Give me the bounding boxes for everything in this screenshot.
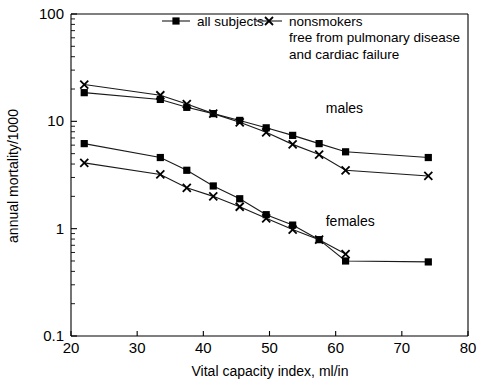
chart-background bbox=[0, 0, 485, 385]
x-tick-label: 60 bbox=[327, 339, 344, 356]
x-axis-title: Vital capacity index, ml/in bbox=[192, 363, 349, 379]
x-tick-label: 30 bbox=[129, 339, 146, 356]
annotation-females: females bbox=[326, 213, 375, 229]
x-tick-label: 50 bbox=[261, 339, 278, 356]
data-marker-square bbox=[342, 148, 349, 155]
data-marker-square bbox=[183, 167, 190, 174]
annotation-males: males bbox=[326, 100, 363, 116]
data-marker-square bbox=[81, 89, 88, 96]
chart-container: 20304050607080 0.1110100 all subjectsnon… bbox=[0, 0, 485, 385]
data-marker-square bbox=[316, 140, 323, 147]
data-marker-square bbox=[157, 154, 164, 161]
x-tick-label: 20 bbox=[63, 339, 80, 356]
data-marker-square bbox=[425, 258, 432, 265]
x-tick-label: 70 bbox=[393, 339, 410, 356]
legend-label-nonsmokers: nonsmokers bbox=[289, 14, 363, 29]
y-axis-title: annual mortality/1000 bbox=[5, 109, 21, 243]
mortality-vs-vital-capacity-chart: 20304050607080 0.1110100 all subjectsnon… bbox=[0, 0, 485, 385]
legend-subline-2: and cardiac failure bbox=[289, 47, 399, 62]
x-tick-label: 80 bbox=[460, 339, 477, 356]
y-tick-label: 100 bbox=[39, 5, 64, 22]
y-tick-label: 10 bbox=[47, 112, 64, 129]
data-marker-square bbox=[342, 257, 349, 264]
data-marker-square bbox=[210, 182, 217, 189]
data-marker-square bbox=[81, 140, 88, 147]
y-tick-label: 1 bbox=[56, 220, 64, 237]
data-marker-square bbox=[425, 154, 432, 161]
y-tick-label: 0.1 bbox=[43, 327, 64, 344]
data-marker-square bbox=[289, 132, 296, 139]
legend-label-all-subjects: all subjects bbox=[197, 14, 264, 29]
x-tick-label: 40 bbox=[195, 339, 212, 356]
data-marker-square bbox=[236, 195, 243, 202]
legend-subline-1: free from pulmonary disease bbox=[289, 30, 460, 45]
legend-marker-square bbox=[172, 17, 179, 24]
